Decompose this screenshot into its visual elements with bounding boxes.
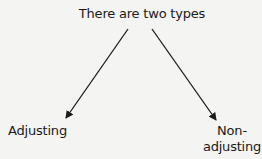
child-node-non-adjusting: Non- adjusting xyxy=(200,123,262,155)
non-adjusting-line-1: Non- xyxy=(200,123,262,139)
edge-arrow-to-non-adjusting xyxy=(152,29,216,120)
edge-arrow-to-adjusting xyxy=(66,29,128,118)
child-node-adjusting: Adjusting xyxy=(8,123,67,138)
non-adjusting-line-2: adjusting xyxy=(200,139,262,155)
